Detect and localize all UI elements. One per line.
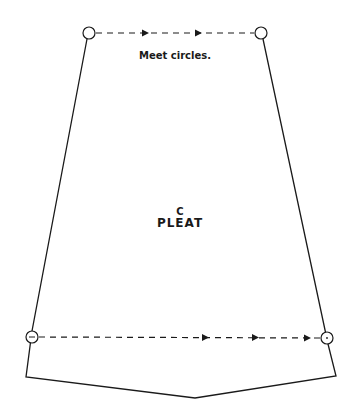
- piece-name: PLEAT: [140, 217, 220, 230]
- bottom-dashed-line: [39, 337, 320, 338]
- circle-dot: [326, 337, 328, 339]
- match-circle-icon: [255, 27, 267, 39]
- match-circle-icon: [83, 27, 95, 39]
- instruction-note: Meet circles.: [120, 50, 230, 61]
